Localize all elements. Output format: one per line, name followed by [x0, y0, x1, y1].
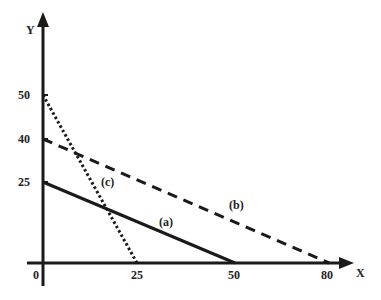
x-tick-label-50: 50	[228, 268, 240, 282]
y-axis-arrow-icon	[37, 12, 49, 27]
series-c-line	[43, 95, 137, 263]
x-axis-arrow-icon	[339, 257, 354, 269]
origin-label: 0	[33, 268, 39, 282]
x-axis-label: X	[356, 266, 365, 280]
series-a-line	[43, 182, 235, 263]
series-b-label: (b)	[229, 198, 244, 212]
x-tick-label-25: 25	[131, 268, 143, 282]
chart: Y X 50 40 25 0 25 50 80 (c) (a) (b)	[0, 0, 381, 300]
y-tick-label-25: 25	[18, 175, 30, 189]
y-tick-label-50: 50	[18, 88, 30, 102]
y-axis-label: Y	[26, 23, 35, 37]
series-a-label: (a)	[159, 215, 173, 229]
series-c-label: (c)	[101, 175, 114, 189]
x-tick-label-80: 80	[321, 268, 333, 282]
y-tick-label-40: 40	[18, 132, 30, 146]
